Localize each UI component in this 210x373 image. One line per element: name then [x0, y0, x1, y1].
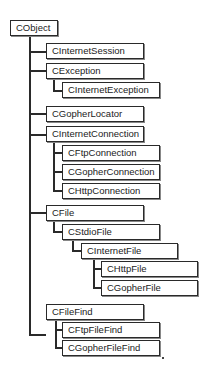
node-cinternetfile: CInternetFile — [81, 243, 178, 259]
node-cgopherfile: CGopherFile — [101, 280, 198, 296]
branch-line — [29, 134, 46, 136]
node-cexception: CException — [46, 63, 144, 79]
node-cinternetsession: CInternetSession — [46, 43, 144, 59]
node-cfile: CFile — [46, 205, 144, 221]
node-cfilefind: CFileFind — [46, 304, 144, 320]
node-chttpfile: CHttpFile — [101, 261, 198, 277]
node-chttpconnection: CHttpConnection — [62, 183, 160, 199]
node-cinternetconnection: CInternetConnection — [46, 126, 144, 142]
branch-line — [93, 258, 95, 288]
node-cgopherconnection: CGopherConnection — [62, 164, 160, 180]
branch-line — [29, 51, 46, 53]
branch-line — [55, 320, 57, 348]
node-cstdiofile: CStdioFile — [62, 224, 160, 240]
node-cgopherlocator: CGopherLocator — [46, 106, 144, 122]
branch-line — [29, 113, 46, 115]
branch-line — [29, 212, 46, 214]
node-cftpconnection: CFtpConnection — [62, 145, 160, 161]
node-cobject: CObject — [10, 20, 58, 36]
branch-line — [53, 142, 55, 191]
node-cftpfilefind: CFtpFileFind — [62, 322, 160, 338]
node-cinternetexception: CInternetException — [62, 82, 160, 98]
stray-mark — [162, 357, 164, 359]
branch-line — [29, 70, 46, 72]
node-cgopherfilefind: CGopherFileFind — [62, 340, 160, 356]
branch-line — [29, 334, 46, 336]
trunk-line — [29, 35, 31, 335]
